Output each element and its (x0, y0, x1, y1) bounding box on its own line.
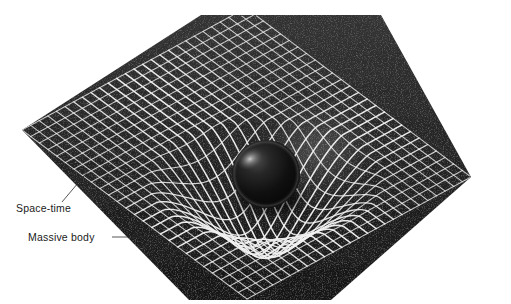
spacetime-curvature-figure: Space-time Massive body (0, 0, 511, 304)
spacetime-label: Space-time (16, 202, 71, 214)
sphere-rim (232, 140, 300, 208)
massive-body-label: Massive body (28, 231, 95, 243)
figure-canvas: Space-time Massive body (0, 0, 511, 304)
